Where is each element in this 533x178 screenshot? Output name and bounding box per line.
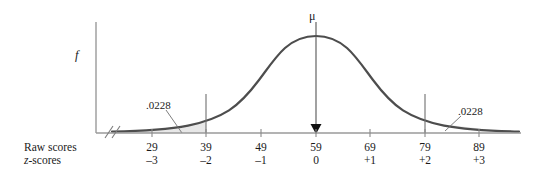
raw-score-value-79: 79 bbox=[405, 141, 445, 153]
y-axis-label-f: f bbox=[75, 48, 78, 63]
raw-score-value-69: 69 bbox=[350, 141, 390, 153]
raw-score-value-29: 29 bbox=[132, 141, 172, 153]
raw-scores-row-label: Raw scores bbox=[24, 141, 77, 153]
raw-score-value-59: 59 bbox=[296, 141, 336, 153]
z-score-value-89: +3 bbox=[459, 154, 499, 166]
z-score-value-39: –2 bbox=[186, 154, 226, 166]
z-score-value-49: –1 bbox=[241, 154, 281, 166]
z-score-value-59: 0 bbox=[296, 154, 336, 166]
mean-symbol-label: μ bbox=[309, 9, 315, 24]
raw-score-value-49: 49 bbox=[241, 141, 281, 153]
z-score-value-29: –3 bbox=[132, 154, 172, 166]
z-scores-suffix: -scores bbox=[28, 154, 61, 166]
z-score-value-69: +1 bbox=[350, 154, 390, 166]
right-tail-probability-label: .0228 bbox=[458, 105, 483, 117]
z-scores-row-label: z-scores bbox=[24, 154, 61, 166]
raw-score-value-39: 39 bbox=[186, 141, 226, 153]
raw-score-value-89: 89 bbox=[459, 141, 499, 153]
z-score-value-79: +2 bbox=[405, 154, 445, 166]
left-tail-probability-label: .0228 bbox=[146, 99, 171, 111]
